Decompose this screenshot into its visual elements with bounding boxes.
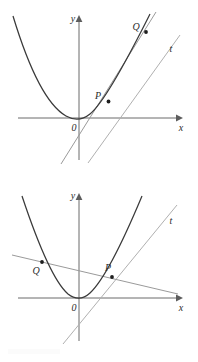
figure-top: P Q t y x 0 [0,0,198,181]
label-x-axis-top: x [178,122,184,133]
x-axis-arrow-bottom [176,295,183,302]
label-origin-top: 0 [72,122,77,133]
label-y-axis-bottom: y [70,190,76,201]
label-q-bottom: Q [32,265,40,276]
label-p-bottom: P [104,262,111,273]
figure-bottom: Q P t y x 0 [0,181,198,362]
x-axis-arrow-top [176,115,183,122]
diagram-page: P Q t y x 0 Q P [0,0,198,362]
label-tangent-bottom: t [170,215,173,226]
y-axis-arrow-top [76,15,83,22]
parabola-curve-bottom [22,196,142,298]
y-axis-arrow-bottom [76,193,83,200]
label-x-axis-bottom: x [178,302,184,313]
label-q-top: Q [132,21,140,32]
page-footer-artifact [8,349,60,354]
point-q-bottom [40,260,44,264]
tangent-line-bottom [63,205,177,344]
label-p-top: P [94,90,101,101]
label-y-axis-top: y [70,13,76,24]
point-p-top [107,100,111,104]
point-q-top [144,30,148,34]
parabola-curve-top [13,14,150,119]
label-tangent-top: t [170,43,173,54]
point-p-bottom [110,275,114,279]
label-origin-bottom: 0 [72,302,77,313]
